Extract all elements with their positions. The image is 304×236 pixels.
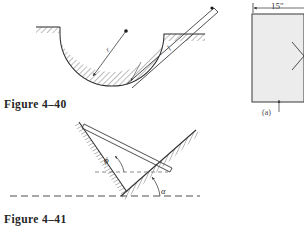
angle-alpha-label: α	[161, 186, 165, 196]
ground-left-hatch	[36, 27, 60, 33]
rod41-edge-lower	[84, 124, 172, 168]
figure-4-41-caption: Figure 4–41	[4, 213, 67, 225]
plate-outline	[252, 14, 304, 102]
rod-end-cap	[214, 8, 218, 12]
angle-phi-label: ϕ	[104, 155, 109, 165]
right-incline-line	[121, 130, 196, 196]
rod-edge-upper	[127, 8, 214, 84]
bowl-center-dot	[124, 29, 128, 33]
phi-arc	[115, 156, 124, 172]
left-incline-hatch	[74, 122, 127, 195]
bowl-hatching	[60, 27, 205, 86]
rod-edge-lower	[132, 12, 218, 88]
dimension-15-inch-label: 15″	[271, 1, 284, 11]
figure-right-panel-artwork	[252, 3, 304, 112]
rod41-end-right	[170, 168, 172, 172]
figure-artwork	[0, 0, 304, 236]
rod-tip-dot	[210, 6, 213, 9]
figure-4-40-caption: Figure 4–40	[4, 98, 67, 110]
figure-page: Figure 4–40 Figure 4–41 r l ϕ α 15″ (a)	[0, 0, 304, 236]
subfigure-label: (a)	[262, 108, 271, 117]
figure-4-40-artwork	[36, 6, 218, 88]
left-incline-line	[79, 122, 127, 192]
alpha-arc	[152, 177, 160, 196]
